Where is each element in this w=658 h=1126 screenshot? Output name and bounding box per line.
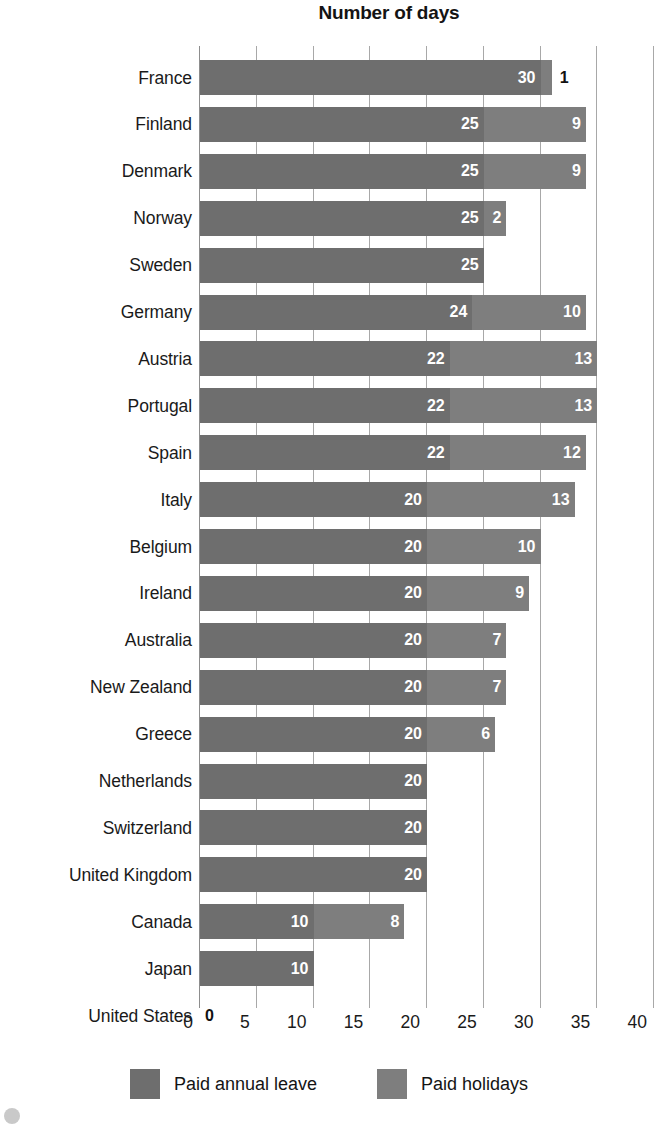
bar-segment-annual-leave[interactable]: 10	[200, 904, 314, 939]
x-tick-label-40: 40	[628, 1012, 653, 1033]
stacked-bar[interactable]: 10	[200, 951, 314, 986]
bar-segment-paid-holidays[interactable]: 6	[427, 717, 495, 752]
stacked-bar[interactable]: 252	[200, 201, 506, 236]
bar-row[interactable]: Japan10	[0, 951, 658, 986]
bar-segment-annual-leave[interactable]: 10	[200, 951, 314, 986]
bar-segment-annual-leave[interactable]: 20	[200, 717, 427, 752]
bar-segment-annual-leave[interactable]: 20	[200, 764, 427, 799]
stacked-bar[interactable]: 259	[200, 154, 586, 189]
category-label: Belgium	[0, 536, 192, 557]
bar-segment-annual-leave[interactable]: 20	[200, 529, 427, 564]
bar-rows: France301Finland259Denmark259Norway252Sw…	[0, 46, 658, 1008]
bar-value-label: 20	[404, 492, 422, 508]
legend-item[interactable]: Paid holidays	[377, 1069, 528, 1099]
bar-row[interactable]: Greece206	[0, 717, 658, 752]
bar-value-label: 13	[552, 492, 570, 508]
stacked-bar[interactable]: 2013	[200, 482, 575, 517]
bar-segment-annual-leave[interactable]: 20	[200, 857, 427, 892]
stacked-bar[interactable]: 20	[200, 810, 427, 845]
bar-segment-annual-leave[interactable]: 25	[200, 201, 484, 236]
stacked-bar[interactable]: 20	[200, 857, 427, 892]
category-label: Finland	[0, 114, 192, 135]
bar-row[interactable]: Netherlands20	[0, 764, 658, 799]
category-label: Austria	[0, 348, 192, 369]
bar-segment-paid-holidays[interactable]: 13	[450, 341, 598, 376]
bar-segment-annual-leave[interactable]: 20	[200, 810, 427, 845]
bar-segment-paid-holidays[interactable]: 12	[450, 435, 586, 470]
bar-segment-paid-holidays[interactable]: 9	[427, 576, 529, 611]
bar-row[interactable]: Canada108	[0, 904, 658, 939]
bar-row[interactable]: United Kingdom20	[0, 857, 658, 892]
bar-value-label: 24	[450, 304, 468, 320]
bar-segment-annual-leave[interactable]: 20	[200, 623, 427, 658]
bar-value-label: 10	[563, 304, 581, 320]
bar-segment-annual-leave[interactable]: 20	[200, 576, 427, 611]
bar-row[interactable]: Norway252	[0, 201, 658, 236]
bar-segment-paid-holidays[interactable]: 9	[484, 107, 586, 142]
bar-row[interactable]: Australia207	[0, 623, 658, 658]
stacked-bar[interactable]: 207	[200, 670, 506, 705]
stacked-bar[interactable]: 2213	[200, 388, 597, 423]
bar-row[interactable]: Switzerland20	[0, 810, 658, 845]
x-tick-label-0: 0	[183, 1012, 199, 1033]
bar-segment-annual-leave[interactable]: 25	[200, 154, 484, 189]
bar-row[interactable]: Italy2013	[0, 482, 658, 517]
bar-segment-paid-holidays[interactable]: 10	[427, 529, 541, 564]
category-label: Greece	[0, 724, 192, 745]
bar-row[interactable]: Portugal2213	[0, 388, 658, 423]
stacked-bar[interactable]: 301	[200, 60, 552, 95]
bar-segment-annual-leave[interactable]: 22	[200, 435, 450, 470]
stacked-bar[interactable]: 209	[200, 576, 529, 611]
bar-segment-annual-leave[interactable]: 25	[200, 107, 484, 142]
bar-segment-annual-leave[interactable]: 25	[200, 248, 484, 283]
bar-segment-annual-leave[interactable]: 24	[200, 295, 472, 330]
legend-item[interactable]: Paid annual leave	[130, 1069, 317, 1099]
stacked-bar[interactable]: 207	[200, 623, 506, 658]
x-tick-label-5: 5	[240, 1012, 256, 1033]
stacked-bar[interactable]: 259	[200, 107, 586, 142]
bar-row[interactable]: Denmark259	[0, 154, 658, 189]
page-corner-mark	[4, 1108, 20, 1124]
bar-segment-paid-holidays[interactable]: 7	[427, 623, 506, 658]
stacked-bar[interactable]: 2010	[200, 529, 541, 564]
bar-segment-annual-leave[interactable]: 22	[200, 388, 450, 423]
bar-value-label: 20	[404, 539, 422, 555]
bar-segment-paid-holidays[interactable]: 7	[427, 670, 506, 705]
stacked-bar[interactable]: 108	[200, 904, 404, 939]
bar-row[interactable]: France301	[0, 60, 658, 95]
bar-segment-paid-holidays[interactable]: 10	[472, 295, 586, 330]
bar-segment-annual-leave[interactable]: 22	[200, 341, 450, 376]
stacked-bar[interactable]: 20	[200, 764, 427, 799]
bar-value-label: 10	[291, 914, 309, 930]
bar-segment-annual-leave[interactable]: 30	[200, 60, 541, 95]
stacked-bar[interactable]: 2213	[200, 341, 597, 376]
bar-segment-paid-holidays[interactable]: 1	[541, 60, 552, 95]
bar-value-label: 20	[404, 632, 422, 648]
bar-segment-paid-holidays[interactable]: 9	[484, 154, 586, 189]
category-label: Norway	[0, 208, 192, 229]
bar-row[interactable]: Austria2213	[0, 341, 658, 376]
bar-segment-paid-holidays[interactable]: 2	[484, 201, 507, 236]
bar-segment-annual-leave[interactable]: 20	[200, 670, 427, 705]
stacked-bar[interactable]: 25	[200, 248, 484, 283]
x-tick-label-15: 15	[344, 1012, 369, 1033]
category-label: Netherlands	[0, 771, 192, 792]
stacked-bar[interactable]: 206	[200, 717, 495, 752]
bar-row[interactable]: Germany2410	[0, 295, 658, 330]
bar-row[interactable]: Sweden25	[0, 248, 658, 283]
bar-segment-paid-holidays[interactable]: 13	[450, 388, 598, 423]
bar-segment-annual-leave[interactable]: 20	[200, 482, 427, 517]
bar-row[interactable]: New Zealand207	[0, 670, 658, 705]
bar-row[interactable]: Finland259	[0, 107, 658, 142]
bar-value-label: 7	[493, 632, 502, 648]
stacked-bar[interactable]: 2410	[200, 295, 586, 330]
bar-value-label: 9	[515, 585, 524, 601]
bar-segment-paid-holidays[interactable]: 8	[314, 904, 405, 939]
bar-row[interactable]: Ireland209	[0, 576, 658, 611]
bar-value-label: 10	[518, 539, 536, 555]
bar-row[interactable]: Spain2212	[0, 435, 658, 470]
bar-segment-paid-holidays[interactable]: 13	[427, 482, 575, 517]
stacked-bar[interactable]: 2212	[200, 435, 586, 470]
bar-row[interactable]: Belgium2010	[0, 529, 658, 564]
x-tick-label-20: 20	[401, 1012, 426, 1033]
